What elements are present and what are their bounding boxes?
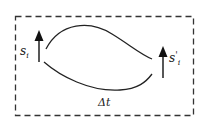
- diagram-canvas: si s'i Δt: [0, 0, 208, 126]
- state-s-prime-i-label: s'i: [169, 50, 181, 67]
- state-s-prime-i-arrow: [159, 46, 168, 78]
- arrow-up-icon: [35, 30, 44, 41]
- lower-transition-curve: [44, 62, 152, 90]
- upper-transition-curve: [46, 25, 152, 59]
- state-s-i-arrow: [35, 30, 44, 62]
- state-s-i-label: si: [20, 44, 29, 60]
- delta-t-label: Δt: [97, 96, 111, 109]
- arrow-up-icon: [159, 46, 168, 57]
